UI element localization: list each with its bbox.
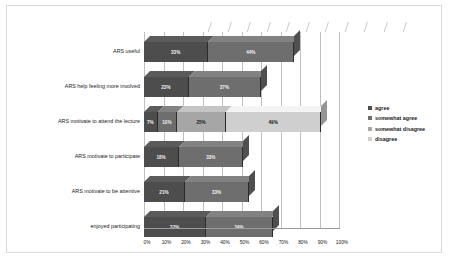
x-tick-label: 80% xyxy=(298,240,308,245)
legend-swatch xyxy=(368,116,372,120)
bar-segment-somewhat-agree[interactable]: 44% xyxy=(208,42,294,62)
legend-label: disagree xyxy=(375,136,397,142)
legend-swatch xyxy=(368,106,372,110)
x-tick-label: 70% xyxy=(279,240,289,245)
plot-area: 33%44%23%37%7%10%25%49%18%33%21%33%32%34… xyxy=(144,32,339,238)
bar-top-face xyxy=(144,71,195,77)
legend-item[interactable]: somewhat disagree xyxy=(368,125,448,132)
legend-item[interactable]: disagree xyxy=(368,136,448,143)
bar-top-face xyxy=(208,36,300,42)
segment-value-label: 33% xyxy=(179,155,242,160)
depth-line xyxy=(403,22,407,32)
depth-line xyxy=(266,22,270,32)
bar-segment-somewhat-agree[interactable]: 33% xyxy=(179,147,243,167)
category-label: ARS help feeling more involved xyxy=(65,83,140,89)
bar-segment-somewhat-disagree[interactable]: 25% xyxy=(177,112,226,132)
segment-value-label: 7% xyxy=(144,120,157,125)
bar-top-face xyxy=(179,141,249,147)
x-tick-label: 60% xyxy=(259,240,269,245)
gridline xyxy=(339,32,340,228)
bar-segment-somewhat-agree[interactable]: 37% xyxy=(189,77,261,97)
x-tick-label: 50% xyxy=(240,240,250,245)
bar-top-face xyxy=(144,36,214,42)
bar-top-face xyxy=(206,211,278,217)
category-label: ARS motivate to participate xyxy=(75,153,140,159)
legend-swatch xyxy=(368,137,372,141)
bar-segment-agree[interactable]: 33% xyxy=(144,42,208,62)
bar-segment-somewhat-agree[interactable]: 33% xyxy=(185,182,249,202)
legend-label: somewhat disagree xyxy=(375,126,425,132)
bar-top-face xyxy=(185,176,255,182)
bar-top-face xyxy=(144,176,191,182)
x-tick-label: 40% xyxy=(220,240,230,245)
segment-value-label: 18% xyxy=(144,155,178,160)
segment-value-label: 23% xyxy=(144,85,188,90)
bar-top-face xyxy=(226,106,328,112)
segment-value-label: 33% xyxy=(185,190,248,195)
depth-line xyxy=(383,22,387,32)
stacked-bar[interactable]: 18%33% xyxy=(144,147,243,167)
x-tick-label: 30% xyxy=(201,240,211,245)
segment-value-label: 49% xyxy=(226,120,321,125)
category-label: ARS motivate to attend the lecture xyxy=(58,118,140,124)
x-axis-line xyxy=(144,228,340,229)
segment-value-label: 21% xyxy=(144,190,184,195)
x-axis-ticks: 0%10%20%30%40%50%60%70%80%90%100% xyxy=(144,234,359,250)
category-label: ARS useful xyxy=(113,48,140,54)
bar-segment-agree[interactable]: 23% xyxy=(144,77,189,97)
stacked-bar[interactable]: 7%10%25%49% xyxy=(144,112,321,132)
depth-line xyxy=(286,22,290,32)
depth-line xyxy=(208,22,212,32)
category-axis: ARS usefulARS help feeling more involved… xyxy=(13,32,140,238)
x-tick-label: 90% xyxy=(318,240,328,245)
stacked-bar[interactable]: 33%44% xyxy=(144,42,294,62)
x-tick-label: 20% xyxy=(181,240,191,245)
bar-top-face xyxy=(144,211,212,217)
stacked-bar[interactable]: 23%37% xyxy=(144,77,261,97)
depth-line xyxy=(247,22,251,32)
segment-value-label: 37% xyxy=(189,85,260,90)
bar-segment-agree[interactable]: 7% xyxy=(144,112,158,132)
bar-segment-disagree[interactable]: 49% xyxy=(226,112,322,132)
chart-frame: ARS usefulARS help feeling more involved… xyxy=(6,5,442,253)
depth-line xyxy=(344,22,348,32)
chart-legend: agreesomewhat agreesomewhat disagreedisa… xyxy=(368,104,448,146)
x-tick-label: 100% xyxy=(336,240,348,245)
stacked-bar[interactable]: 21%33% xyxy=(144,182,249,202)
legend-label: somewhat agree xyxy=(375,115,417,121)
legend-label: agree xyxy=(375,105,389,111)
bar-top-face xyxy=(177,106,232,112)
legend-swatch xyxy=(368,127,372,131)
segment-value-label: 25% xyxy=(177,120,225,125)
segment-value-label: 10% xyxy=(158,120,177,125)
segment-value-label: 33% xyxy=(144,50,207,55)
segment-value-label: 44% xyxy=(208,50,293,55)
depth-line xyxy=(325,22,329,32)
bar-top-face xyxy=(189,71,267,77)
legend-item[interactable]: somewhat agree xyxy=(368,115,448,122)
category-label: ARS motivate to be attentive xyxy=(72,188,140,194)
x-tick-label: 10% xyxy=(162,240,172,245)
depth-line xyxy=(364,22,368,32)
bar-segment-somewhat-agree[interactable]: 10% xyxy=(158,112,178,132)
bar-segment-agree[interactable]: 18% xyxy=(144,147,179,167)
category-label: enjoyed participating xyxy=(91,223,140,229)
depth-line xyxy=(227,22,231,32)
x-tick-label: 0% xyxy=(144,240,151,245)
depth-line xyxy=(305,22,309,32)
bar-segment-agree[interactable]: 21% xyxy=(144,182,185,202)
legend-item[interactable]: agree xyxy=(368,104,448,111)
